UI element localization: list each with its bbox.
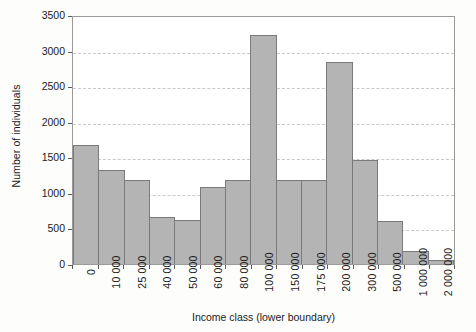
bar [225, 180, 251, 264]
bar [352, 160, 378, 264]
y-axis-ticks: 0500100015002000250030003500 [0, 16, 72, 265]
plot-area [72, 16, 455, 265]
bar [250, 35, 276, 264]
bar-series [73, 17, 454, 264]
bar [73, 145, 99, 264]
bar [200, 187, 226, 264]
histogram-figure: Number of individuals 050010001500200025… [0, 0, 476, 332]
bar [98, 170, 124, 264]
bar [326, 62, 352, 264]
bar [124, 180, 150, 264]
x-axis-title: Income class (lower boundary) [72, 311, 455, 323]
